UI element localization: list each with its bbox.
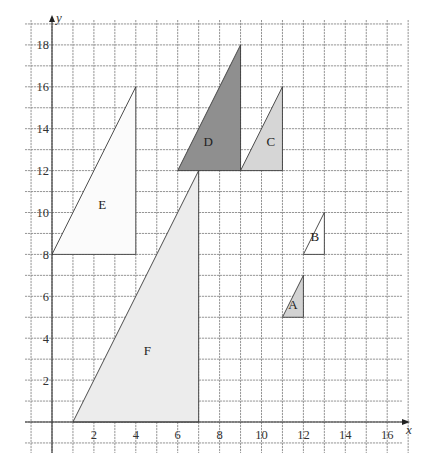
y-axis-title: y [54,10,62,25]
x-tick-label: 16 [381,428,394,442]
triangle-label-e: E [98,197,106,212]
triangle-label-d: D [203,134,212,149]
y-tick-label: 14 [37,122,50,136]
y-tick-label: 16 [37,80,50,94]
triangle-label-a: A [288,297,298,312]
x-tick-label: 10 [255,428,268,442]
x-tick-label: 12 [297,428,310,442]
x-axis-title: x [405,422,412,437]
x-tick-label: 2 [91,428,97,442]
triangle-label-c: C [267,134,276,149]
y-tick-label: 12 [37,164,50,178]
y-axis-arrow-icon [49,15,55,22]
x-tick-label: 8 [216,428,222,442]
y-tick-label: 4 [43,332,50,346]
x-tick-label: 6 [175,428,181,442]
triangle-label-f: F [144,343,151,358]
y-tick-label: 10 [37,206,50,220]
triangle-label-b: B [311,229,320,244]
y-tick-label: 6 [43,290,49,304]
coordinate-grid-diagram: x y 24681012141624681012141618 ABCDEF [0,0,425,468]
x-tick-label: 4 [133,428,140,442]
x-tick-label: 14 [339,428,352,442]
y-tick-label: 2 [43,374,49,388]
y-tick-label: 8 [43,248,49,262]
y-tick-label: 18 [37,38,50,52]
